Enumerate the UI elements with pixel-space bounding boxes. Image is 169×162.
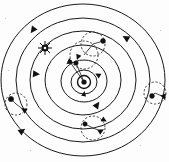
star-center-dot-icon <box>44 47 47 50</box>
planet-bottom <box>83 122 87 126</box>
planet-upper-right <box>101 39 106 44</box>
planet-inner-upper <box>74 61 78 65</box>
orbit-diagram-canvas <box>0 0 169 162</box>
star-symbol-left <box>38 41 52 55</box>
planet-left-edge <box>8 96 13 101</box>
planet-right-edge <box>150 94 155 99</box>
orbit-diagram-root: Concentric planetary orbit diagram <box>0 0 169 162</box>
